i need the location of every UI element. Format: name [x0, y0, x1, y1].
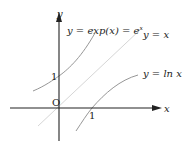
x-axis-label: x	[164, 103, 170, 114]
function-plot: x y O 1 1 y = exp(x) = ex y = x y = ln x	[0, 0, 186, 150]
origin-label: O	[52, 97, 60, 108]
ln-curve-label: y = ln x	[142, 68, 182, 79]
y-axis-label: y	[56, 8, 63, 19]
y-tick-label: 1	[51, 71, 57, 82]
identity-curve-label: y = x	[142, 29, 169, 40]
x-axis-arrow-icon	[152, 105, 162, 111]
exp-curve-label: y = exp(x) = ex	[66, 24, 143, 36]
x-tick-label: 1	[89, 110, 95, 121]
ln-curve	[76, 75, 138, 131]
exp-curve	[33, 33, 95, 91]
